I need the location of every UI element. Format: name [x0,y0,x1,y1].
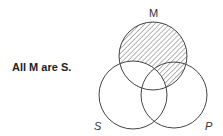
label-s: S [94,120,102,132]
venn-diagram: M S P [0,0,223,136]
label-p: P [205,120,213,132]
label-m: M [149,7,158,19]
